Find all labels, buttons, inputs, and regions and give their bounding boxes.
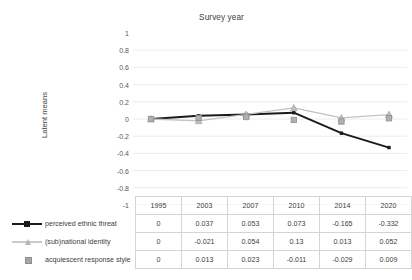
table-cell: -0.021 — [182, 233, 228, 251]
y-axis-tick-labels: 10.80.60.40.20-0.2-0.4-0.6-0.8-1 — [95, 33, 129, 205]
legend-marker-line-icon — [12, 219, 42, 229]
y-axis-tick-label: -0.2 — [95, 133, 129, 140]
table-cell: 0.013 — [182, 251, 228, 269]
table-cell: 0.053 — [228, 215, 274, 233]
legend-entry-subnational-identity: (sub)national identity — [10, 233, 136, 251]
data-point-marker — [291, 117, 296, 122]
table-row: acquiescent response style 0 0.013 0.023… — [10, 251, 412, 269]
data-point-marker — [339, 119, 344, 124]
legend-header-spacer — [10, 197, 136, 215]
table-cell: 0 — [136, 233, 182, 251]
table-cell: 0.037 — [182, 215, 228, 233]
data-table: 1995 2003 2007 2010 2014 2020 perceived … — [10, 196, 412, 269]
table-cell: 0 — [136, 251, 182, 269]
data-point-marker — [292, 111, 295, 114]
legend-label: perceived ethnic threat — [45, 220, 117, 228]
table-header-cell: 1995 — [136, 197, 182, 215]
table-cell: 0.052 — [366, 233, 412, 251]
y-axis-tick-label: -0.4 — [95, 150, 129, 157]
y-axis-tick-label: -0.6 — [95, 167, 129, 174]
table-cell: 0.054 — [228, 233, 274, 251]
data-point-marker — [340, 131, 343, 134]
data-point-marker — [148, 116, 153, 121]
data-point-marker — [387, 146, 390, 149]
table-cell: 0.013 — [320, 233, 366, 251]
plot-area: 10.80.60.40.20-0.2-0.4-0.6-0.8-1 — [95, 33, 407, 205]
table-header-cell: 2014 — [320, 197, 366, 215]
plot-canvas — [133, 33, 407, 205]
legend-label: (sub)national identity — [45, 238, 110, 246]
table-cell: 0.009 — [366, 251, 412, 269]
table-cell: -0.011 — [274, 251, 320, 269]
legend-label: acquiescent response style — [45, 256, 131, 264]
table-cell: -0.165 — [320, 215, 366, 233]
legend-marker-square-icon — [12, 255, 42, 265]
y-axis-tick-label: 0.6 — [95, 64, 129, 71]
table-header-row: 1995 2003 2007 2010 2014 2020 — [10, 197, 412, 215]
data-point-marker — [196, 115, 201, 120]
table-cell: 0.073 — [274, 215, 320, 233]
legend-entry-perceived-ethnic-threat: perceived ethnic threat — [10, 215, 136, 233]
chart-title-text: Survey year — [199, 13, 244, 22]
y-axis-tick-label: -0.8 — [95, 184, 129, 191]
table-row: perceived ethnic threat 0 0.037 0.053 0.… — [10, 215, 412, 233]
table-header-cell: 2020 — [366, 197, 412, 215]
table-cell: -0.029 — [320, 251, 366, 269]
table-header-cell: 2007 — [228, 197, 274, 215]
y-axis-tick-label: 0 — [95, 116, 129, 123]
y-axis-tick-label: 0.4 — [95, 81, 129, 88]
y-axis-tick-label: 0.8 — [95, 47, 129, 54]
table-header-cell: 2003 — [182, 197, 228, 215]
data-point-marker — [244, 114, 249, 119]
legend-entry-acquiescent-response-style: acquiescent response style — [10, 251, 136, 269]
data-point-marker — [386, 116, 391, 121]
table-cell: -0.332 — [366, 215, 412, 233]
series-lines — [151, 108, 389, 148]
table-cell: 0 — [136, 215, 182, 233]
table-header-cell: 2010 — [274, 197, 320, 215]
legend-marker-triangle-icon — [12, 237, 42, 247]
table-cell: 0.13 — [274, 233, 320, 251]
y-axis-tick-label: 0.2 — [95, 98, 129, 105]
series-line — [151, 113, 389, 148]
y-axis-title: Latent means — [40, 70, 49, 160]
table-cell: 0.023 — [228, 251, 274, 269]
table-row: (sub)national identity 0 -0.021 0.054 0.… — [10, 233, 412, 251]
y-axis-tick-label: 1 — [95, 30, 129, 37]
gridlines — [133, 50, 407, 205]
chart-title: Survey year — [0, 13, 411, 22]
